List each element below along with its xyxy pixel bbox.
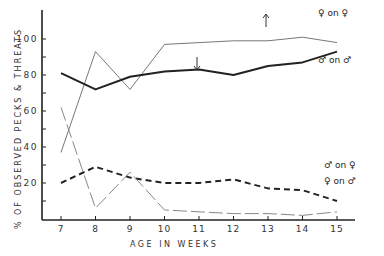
y-tick-label: 80 — [24, 70, 38, 80]
x-tick-label: 8 — [92, 224, 99, 234]
x-tick-label: 7 — [58, 224, 65, 234]
line-chart: 20406080100789101112131415 ♀ on ♀♂ on ♂♂… — [0, 0, 384, 256]
series-label: ♂ on ♂ — [318, 55, 351, 65]
x-tick-label: 12 — [227, 224, 240, 234]
x-tick-label: 15 — [330, 224, 343, 234]
series-labels: ♀ on ♀♂ on ♂♂ on ♀♀ on ♂ — [318, 8, 356, 186]
x-axis-label: AGE IN WEEKS — [130, 240, 218, 249]
series-label: ♂ on ♀ — [324, 160, 356, 170]
series-label: ♀ on ♂ — [324, 176, 356, 186]
x-tick-label: 11 — [192, 224, 205, 234]
series-label: ♀ on ♀ — [318, 8, 348, 18]
series-line — [61, 37, 337, 152]
series-line — [61, 167, 337, 201]
x-tick-label: 13 — [261, 224, 274, 234]
series-line — [61, 52, 337, 90]
x-tick-label: 9 — [127, 224, 134, 234]
series-lines — [61, 37, 337, 215]
x-tick-label: 14 — [296, 224, 309, 234]
y-tick-label: 60 — [24, 106, 38, 116]
series-line — [61, 107, 337, 215]
y-axis-label: % OF OBSERVED PECKS & THREATS — [14, 19, 23, 239]
x-tick-label: 10 — [158, 224, 171, 234]
y-tick-label: 20 — [24, 178, 38, 188]
y-tick-label: 40 — [24, 142, 38, 152]
